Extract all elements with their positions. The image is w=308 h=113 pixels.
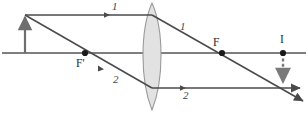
focal-point-near-dot <box>82 50 88 56</box>
ray-1-incident-direction-marker <box>104 12 110 18</box>
ray-2-incident-label: 2 <box>113 74 119 85</box>
ray-2-refracted-label: 2 <box>183 90 189 101</box>
ray-diagram-canvas <box>0 0 308 113</box>
ray-1-incident-label: 1 <box>112 1 118 12</box>
ray-1-refracted-label: 1 <box>180 21 186 32</box>
ray-2-incident <box>25 15 152 88</box>
image-point-label: I <box>280 34 284 46</box>
focal-point-far-dot <box>219 50 225 56</box>
ray-2-incident-direction-marker <box>98 66 104 72</box>
image-point-dot <box>280 50 286 56</box>
focal-point-near-label: F' <box>76 58 84 70</box>
optics-ray-diagram: 1 1 2 2 F' F I <box>0 0 308 113</box>
focal-point-far-label: F <box>213 37 219 49</box>
